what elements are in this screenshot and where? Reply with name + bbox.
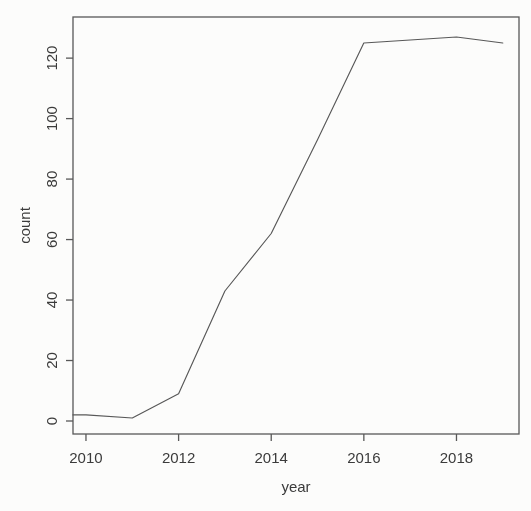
line-chart: 20102012201420162018 020406080100120 yea… [0, 0, 531, 511]
y-tick-label: 40 [43, 292, 60, 309]
x-tick-label: 2012 [162, 449, 195, 466]
y-axis-title: count [16, 206, 33, 244]
x-axis-ticks: 20102012201420162018 [69, 434, 473, 466]
y-tick-label: 20 [43, 352, 60, 369]
y-tick-label: 60 [43, 231, 60, 248]
x-axis-title: year [281, 478, 310, 495]
y-axis-ticks: 020406080100120 [43, 46, 73, 426]
plot-border [73, 17, 519, 434]
y-tick-label: 80 [43, 171, 60, 188]
count-data-line [40, 37, 503, 418]
y-tick-label: 100 [43, 106, 60, 131]
scanned-r-plot: 20102012201420162018 020406080100120 yea… [0, 0, 531, 511]
x-tick-label: 2016 [347, 449, 380, 466]
y-tick-label: 0 [43, 417, 60, 425]
x-tick-label: 2018 [440, 449, 473, 466]
x-tick-label: 2014 [255, 449, 288, 466]
x-tick-label: 2010 [69, 449, 102, 466]
y-tick-label: 120 [43, 46, 60, 71]
